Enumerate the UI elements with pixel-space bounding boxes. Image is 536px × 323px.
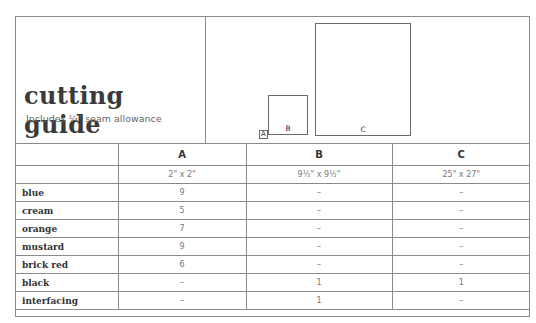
cell: 5 bbox=[118, 202, 246, 220]
cutting-table: A B C 2" x 2" 9½" x 9½" 25" x 27" blue 9… bbox=[16, 143, 530, 310]
row-label: brick red bbox=[16, 256, 118, 274]
row-label: blue bbox=[16, 184, 118, 202]
cell: 9 bbox=[118, 238, 246, 256]
title-cell: cutting guide Includes ¼" seam allowance bbox=[16, 17, 206, 143]
column-header-row: A B C bbox=[16, 143, 530, 166]
cell: 1 bbox=[246, 274, 392, 292]
page-title: cutting guide bbox=[24, 81, 205, 139]
cell: – bbox=[392, 220, 530, 238]
cutting-guide-card: cutting guide Includes ¼" seam allowance… bbox=[15, 16, 530, 317]
column-header-c: C bbox=[392, 143, 530, 166]
cell: – bbox=[246, 238, 392, 256]
table-row: interfacing – 1 – bbox=[16, 292, 530, 310]
size-b: 9½" x 9½" bbox=[246, 166, 392, 184]
piece-b-square: B bbox=[268, 95, 308, 135]
column-header-b: B bbox=[246, 143, 392, 166]
row-label: black bbox=[16, 274, 118, 292]
size-empty bbox=[16, 166, 118, 184]
cell: 6 bbox=[118, 256, 246, 274]
cell: – bbox=[246, 202, 392, 220]
cell: – bbox=[246, 220, 392, 238]
piece-a-square: A bbox=[259, 130, 268, 139]
table-row: cream 5 – – bbox=[16, 202, 530, 220]
size-row: 2" x 2" 9½" x 9½" 25" x 27" bbox=[16, 166, 530, 184]
subtitle: Includes ¼" seam allowance bbox=[26, 113, 162, 124]
size-a: 2" x 2" bbox=[118, 166, 246, 184]
row-label: mustard bbox=[16, 238, 118, 256]
column-header-empty bbox=[16, 143, 118, 166]
cell: – bbox=[392, 292, 530, 310]
cell: – bbox=[392, 238, 530, 256]
cell: 1 bbox=[246, 292, 392, 310]
piece-size-diagram: A B C bbox=[206, 17, 530, 143]
header: cutting guide Includes ¼" seam allowance… bbox=[16, 17, 529, 144]
table-row: blue 9 – – bbox=[16, 184, 530, 202]
column-header-a: A bbox=[118, 143, 246, 166]
table-row: orange 7 – – bbox=[16, 220, 530, 238]
row-label: interfacing bbox=[16, 292, 118, 310]
size-c: 25" x 27" bbox=[392, 166, 530, 184]
table-row: mustard 9 – – bbox=[16, 238, 530, 256]
table-row: brick red 6 – – bbox=[16, 256, 530, 274]
piece-b-label: B bbox=[269, 124, 307, 133]
cell: 7 bbox=[118, 220, 246, 238]
piece-a-label: A bbox=[260, 130, 267, 138]
cell: 9 bbox=[118, 184, 246, 202]
cell: – bbox=[246, 184, 392, 202]
piece-c-square: C bbox=[315, 23, 411, 136]
row-label: cream bbox=[16, 202, 118, 220]
cell: 1 bbox=[392, 274, 530, 292]
row-label: orange bbox=[16, 220, 118, 238]
piece-c-label: C bbox=[316, 125, 410, 134]
cell: – bbox=[392, 256, 530, 274]
table-row: black – 1 1 bbox=[16, 274, 530, 292]
cell: – bbox=[246, 256, 392, 274]
cell: – bbox=[392, 202, 530, 220]
cell: – bbox=[118, 292, 246, 310]
cell: – bbox=[392, 184, 530, 202]
cell: – bbox=[118, 274, 246, 292]
